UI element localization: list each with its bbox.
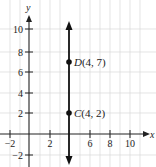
x-axis-arrow-icon xyxy=(143,131,150,137)
svg-text:D(4, 7): D(4, 7) xyxy=(73,56,106,69)
y-axis-arrow-icon xyxy=(26,15,32,22)
line-arrow-up-icon xyxy=(66,21,73,30)
coordinate-plane: x −2 2 6 8 10 y 10 8 6 4 2 −2 xyxy=(0,0,156,167)
x-tick-label: 8 xyxy=(108,138,113,149)
point-d-coords: (4, 7) xyxy=(82,56,106,69)
x-tick-label: 2 xyxy=(48,138,53,149)
point-d: D(4, 7) xyxy=(66,56,106,69)
x-tick-label: 6 xyxy=(88,138,93,149)
point-c: C(4, 2) xyxy=(66,107,105,120)
svg-text:C(4, 2): C(4, 2) xyxy=(74,107,106,120)
y-tick-label: −2 xyxy=(12,150,23,161)
y-tick-label: 4 xyxy=(18,88,23,99)
y-tick-label: 6 xyxy=(18,67,23,78)
line-arrow-down-icon xyxy=(66,156,73,165)
point-c-coords: (4, 2) xyxy=(81,107,105,120)
y-axis: y 10 8 6 4 2 −2 xyxy=(12,2,33,167)
x-axis: x −2 2 6 8 10 xyxy=(0,129,155,149)
x-axis-label: x xyxy=(149,129,155,140)
x-tick-label: 10 xyxy=(125,138,135,149)
y-axis-label: y xyxy=(25,2,31,13)
y-tick-label: 2 xyxy=(18,108,23,119)
y-tick-label: 8 xyxy=(18,47,23,58)
y-tick-label: 10 xyxy=(13,24,23,35)
x-tick-label: −2 xyxy=(5,138,16,149)
point-d-name: D xyxy=(73,56,82,68)
